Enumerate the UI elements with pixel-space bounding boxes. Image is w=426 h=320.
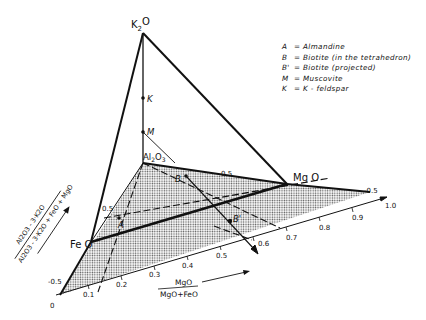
label-M: M xyxy=(147,127,155,137)
al2o3-label: Al2O3 xyxy=(143,152,166,163)
tick-top-0.5: 0.5 xyxy=(221,170,232,178)
x-label-denominator: MgO+FeO xyxy=(160,290,198,299)
x-axis-label: MgO MgO+FeO xyxy=(158,270,250,299)
k2o-label: K2O xyxy=(131,16,150,33)
tick-0.6: 0.6 xyxy=(258,240,270,248)
point-muscovite xyxy=(141,130,145,134)
label-B: B xyxy=(175,174,181,184)
point-biotite xyxy=(184,174,188,178)
y-axis-label: Al2O3 - 3·K2O Al2O3 - 3·K2O + FeO + MgO xyxy=(7,177,83,270)
tick-0.2: 0.2 xyxy=(116,281,127,289)
point-k-feldspar xyxy=(141,96,145,100)
legend-item: A=Almandine xyxy=(282,42,411,53)
tick-right-neg0.5: -0.5 xyxy=(364,187,378,195)
legend-item: M=Muscovite xyxy=(282,74,411,85)
tick-0.1: 0.1 xyxy=(83,291,94,299)
label-B-prime: B' xyxy=(233,214,241,224)
feo-label: Fe O xyxy=(70,239,93,250)
tick-left-neg0.5: -0.5 xyxy=(48,278,62,286)
tick-left-0.5: 0.5 xyxy=(102,205,113,213)
tick-0.4: 0.4 xyxy=(182,262,194,270)
legend-item: B=Biotite (in the tetrahedron) xyxy=(282,53,411,64)
point-biotite-projected xyxy=(228,219,232,223)
legend: A=Almandine B=Biotite (in the tetrahedro… xyxy=(282,42,411,95)
legend-item: B'=Biotite (projected) xyxy=(282,63,411,74)
tick-0.5: 0.5 xyxy=(216,252,227,260)
tick-0.7: 0.7 xyxy=(286,234,297,242)
tick-0: 0 xyxy=(50,302,54,310)
label-A: A xyxy=(117,220,124,230)
x-label-numerator: MgO xyxy=(175,278,192,287)
label-K: K xyxy=(147,94,154,104)
tick-1.0: 1.0 xyxy=(385,202,396,210)
mgo-label: Mg O xyxy=(293,172,319,183)
tick-0.8: 0.8 xyxy=(319,224,330,232)
tick-0.9: 0.9 xyxy=(352,214,363,222)
tick-0.3: 0.3 xyxy=(149,271,160,279)
legend-item: K=K - feldspar xyxy=(282,84,411,95)
